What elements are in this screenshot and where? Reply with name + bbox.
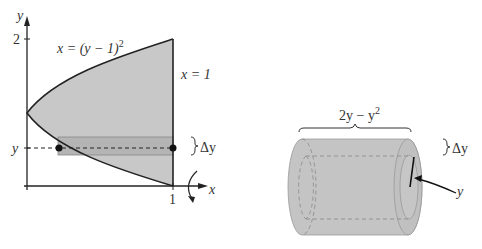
y-tick-label-2: 2: [13, 32, 20, 47]
delta-y-label-right: Δy: [452, 141, 468, 156]
y-axis-label: y: [15, 8, 24, 23]
rotation-arrowhead-icon: [188, 196, 195, 203]
delta-brace-right-icon: [443, 139, 450, 155]
radius-label: y: [455, 184, 464, 199]
x-tick-label-1: 1: [169, 192, 176, 207]
shaded-region: [27, 39, 173, 186]
width-brace-icon: [299, 124, 411, 132]
left-figure: y x 2 1 x = (y − 1)2 x = 1 y Δy: [10, 8, 216, 207]
radius-pointer-arrow: [418, 179, 456, 193]
diagram-canvas: y x 2 1 x = (y − 1)2 x = 1 y Δy 2y − y2: [0, 0, 482, 249]
line-label-x1: x = 1: [180, 67, 211, 82]
curve-label: x = (y − 1)2: [56, 38, 124, 57]
point-on-line: [170, 145, 177, 152]
delta-brace-icon: [191, 137, 198, 155]
x-axis-arrow-icon: [198, 183, 208, 189]
width-label: 2y − y2: [339, 105, 380, 123]
x-axis-label: x: [208, 182, 216, 197]
y-axis-arrow-icon: [24, 16, 30, 26]
cylinder-inner-hole: [400, 155, 418, 219]
delta-y-label: Δy: [200, 140, 216, 155]
strip-rectangle: [58, 137, 173, 155]
y-marker-label: y: [10, 141, 19, 156]
right-figure: 2y − y2 y Δy: [288, 105, 468, 235]
point-on-curve: [56, 145, 63, 152]
rotation-arrow-icon: [188, 171, 197, 199]
